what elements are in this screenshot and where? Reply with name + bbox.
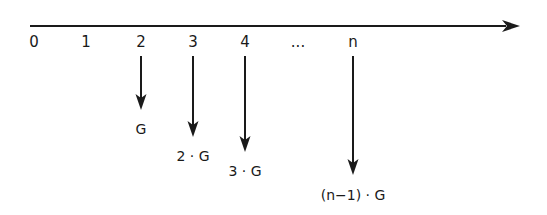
tick-label-3: 3 — [188, 35, 198, 50]
time-axis — [30, 20, 520, 32]
tick-label-1: 1 — [81, 35, 91, 50]
tick-label-ellipsis: ... — [291, 35, 305, 50]
tick-label-2: 2 — [136, 35, 146, 50]
arithmetic-gradient-cash-flow-diagram: 0 1 2 3 4 ... n G 2 · G 3 · G (n−1) · G — [0, 0, 547, 215]
tick-label-n: n — [348, 35, 358, 50]
tick-label-4: 4 — [240, 35, 250, 50]
payment-label-period-2: G — [136, 122, 147, 136]
payment-label-period-3: 2 · G — [176, 149, 209, 163]
payment-label-period-4: 3 · G — [228, 164, 261, 178]
payment-label-period-n: (n−1) · G — [321, 188, 386, 202]
tick-label-0: 0 — [29, 35, 39, 50]
payment-arrows — [136, 56, 359, 175]
